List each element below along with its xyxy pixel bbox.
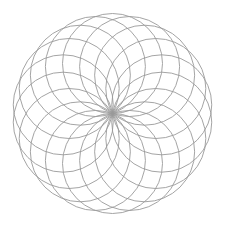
rosette-diagram — [0, 0, 227, 226]
